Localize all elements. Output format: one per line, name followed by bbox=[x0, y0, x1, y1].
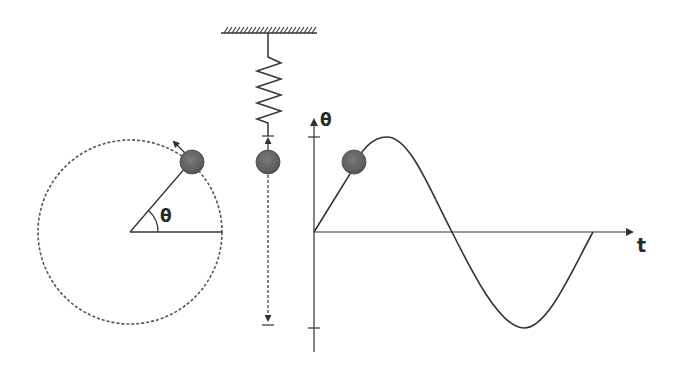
ball-circle bbox=[180, 150, 204, 174]
angle-arc bbox=[149, 211, 158, 232]
ball-graph bbox=[342, 150, 366, 174]
x-axis-label: t bbox=[637, 236, 646, 255]
ceiling-hatch-icon bbox=[224, 27, 316, 33]
diagram-canvas bbox=[0, 0, 680, 368]
spring-mass-panel bbox=[221, 27, 317, 325]
circular-motion-panel bbox=[38, 140, 222, 324]
ball-spring bbox=[256, 150, 280, 174]
angle-label: θ bbox=[160, 208, 172, 225]
spring-coil bbox=[257, 33, 281, 136]
y-axis-label: θ bbox=[320, 112, 332, 129]
radius-line bbox=[130, 167, 186, 232]
sine-graph-panel bbox=[308, 120, 632, 352]
